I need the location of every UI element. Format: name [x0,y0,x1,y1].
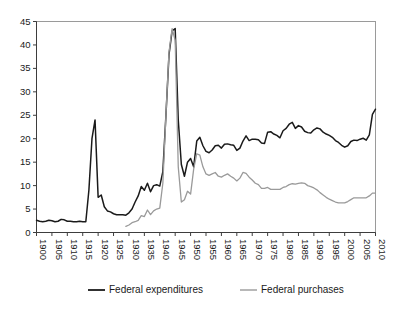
x-tick-label: 1915 [84,239,95,260]
x-tick-label: 1980 [285,239,296,260]
y-tick-label: 15 [20,156,31,167]
y-tick-label: 30 [20,86,31,97]
x-tick-label: 1985 [300,239,311,260]
chart-figure: 051015202530354045 190019051910191519201… [0,0,413,309]
y-tick-label: 45 [20,16,31,27]
x-tick-label: 1910 [69,239,80,260]
x-tick-label: 1995 [331,239,342,260]
y-tick-label: 20 [20,133,31,144]
x-tick-label: 1950 [192,239,203,260]
x-axis-ticks: 1900190519101915192019251930193519401945… [37,233,389,261]
chart-legend: Federal expendituresFederal purchases [88,284,344,295]
y-tick-label: 5 [25,203,30,214]
y-tick-label: 35 [20,62,31,73]
data-series-layer [37,29,376,227]
x-tick-label: 1905 [54,239,65,260]
y-tick-label: 0 [25,227,30,238]
x-tick-label: 1975 [269,239,280,260]
x-tick-label: 2010 [377,239,388,260]
x-tick-label: 1945 [177,239,188,260]
x-tick-label: 2005 [362,239,373,260]
y-tick-label: 40 [20,39,31,50]
legend-label-1: Federal expenditures [109,284,203,295]
x-tick-label: 2000 [346,239,357,260]
y-tick-label: 25 [20,109,31,120]
series-line-federal-expenditures [37,29,376,222]
series-line-federal-purchases [126,29,376,227]
x-tick-label: 1965 [238,239,249,260]
x-tick-label: 1955 [208,239,219,260]
x-tick-label: 1990 [315,239,326,260]
x-tick-label: 1920 [100,239,111,260]
x-tick-label: 1935 [146,239,157,260]
legend-label-2: Federal purchases [261,284,344,295]
x-tick-label: 1940 [161,239,172,260]
y-axis-ticks: 051015202530354045 [20,16,37,238]
x-tick-label: 1960 [223,239,234,260]
x-tick-label: 1970 [254,239,265,260]
line-chart: 051015202530354045 190019051910191519201… [0,0,413,309]
y-tick-label: 10 [20,180,31,191]
x-tick-label: 1930 [131,239,142,260]
x-tick-label: 1900 [38,239,49,260]
x-tick-label: 1925 [115,239,126,260]
